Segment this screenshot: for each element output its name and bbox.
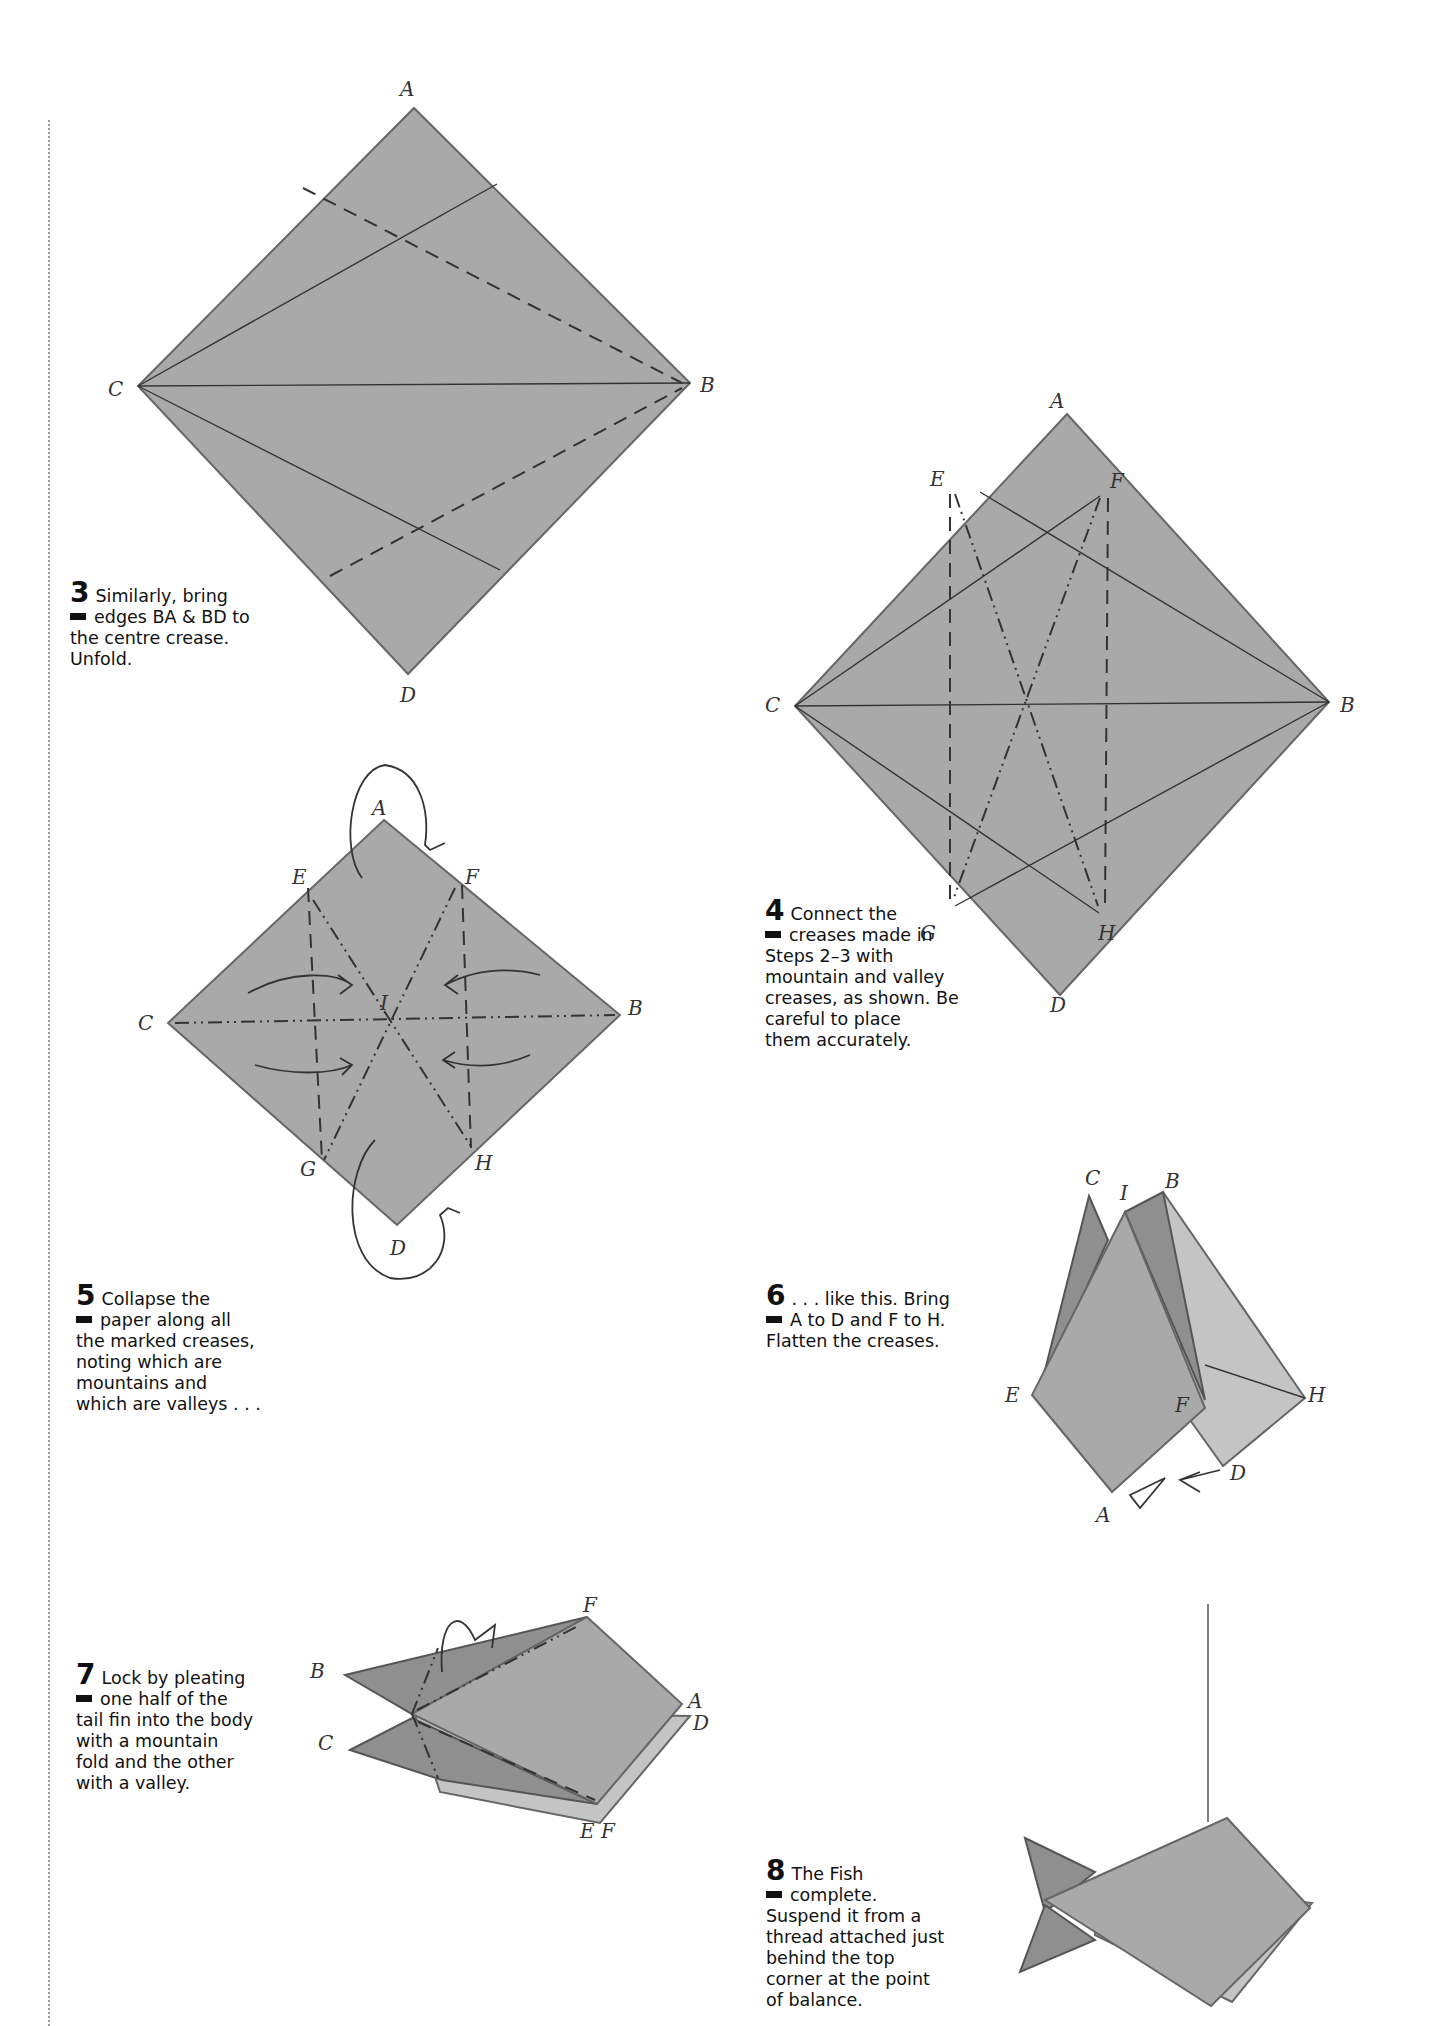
label-D: D — [399, 683, 416, 707]
label-C: C — [108, 377, 123, 401]
label-F: F — [1109, 469, 1125, 493]
label-E: E — [291, 865, 307, 889]
dotted-margin-rule — [48, 120, 50, 2026]
label-I: I — [1119, 1181, 1129, 1205]
label-H: H — [1097, 921, 1116, 945]
label-B: B — [627, 996, 643, 1020]
label-EF: E F — [579, 1819, 616, 1843]
step-7-instructions: 7Lock by pleating one half of the tail f… — [76, 1662, 253, 1794]
label-F: F — [464, 865, 480, 889]
label-D: D — [389, 1236, 406, 1260]
step-bar-icon — [766, 1316, 782, 1323]
step-number: 5 — [76, 1279, 95, 1312]
label-B: B — [309, 1659, 325, 1683]
label-C: C — [318, 1731, 333, 1755]
label-A: A — [370, 796, 386, 820]
step-bar-icon — [76, 1316, 92, 1323]
step-3-instructions: 3Similarly, bring edges BA & BD to the c… — [70, 580, 250, 670]
step-6-diagram: C I B E F H D A — [990, 1160, 1330, 1530]
label-B: B — [699, 373, 715, 397]
label-B: B — [1164, 1169, 1180, 1193]
arrow-icon — [1180, 1470, 1220, 1492]
label-A: A — [1094, 1503, 1110, 1527]
step-8-instructions: 8The Fish complete. Suspend it from a th… — [766, 1858, 944, 2011]
label-C: C — [1085, 1166, 1100, 1190]
step-number: 4 — [765, 894, 784, 927]
label-D: D — [1049, 993, 1066, 1017]
label-E: E — [1004, 1383, 1020, 1407]
label-A: A — [1048, 389, 1064, 413]
label-C: C — [138, 1011, 153, 1035]
label-A: A — [686, 1689, 702, 1713]
label-F: F — [1174, 1393, 1190, 1417]
fish-body — [1045, 1818, 1310, 2006]
step-bar-icon — [76, 1695, 92, 1702]
label-D: D — [692, 1711, 709, 1735]
label-E: E — [929, 467, 945, 491]
step-number: 7 — [76, 1658, 95, 1691]
label-A: A — [398, 77, 414, 101]
step-bar-icon — [765, 931, 781, 938]
step-number: 6 — [766, 1279, 785, 1312]
step-7-diagram: B C F A D E F — [300, 1580, 720, 1840]
label-C: C — [765, 693, 780, 717]
label-F: F — [582, 1593, 598, 1617]
step-number: 3 — [70, 576, 89, 609]
step-5-instructions: 5Collapse the paper along all the marked… — [76, 1283, 261, 1415]
step-bar-icon — [70, 613, 86, 620]
step-4-instructions: 4Connect the creases made in Steps 2–3 w… — [765, 898, 959, 1051]
label-B: B — [1339, 693, 1355, 717]
step-8-diagram — [1000, 1590, 1340, 2026]
step-6-instructions: 6. . . like this. Bring A to D and F to … — [766, 1283, 950, 1352]
label-I: I — [379, 991, 389, 1015]
label-H: H — [474, 1151, 493, 1175]
step-number: 8 — [766, 1854, 785, 1887]
valley-fold-symbol-icon — [1130, 1478, 1165, 1508]
label-H: H — [1307, 1383, 1326, 1407]
label-D: D — [1229, 1461, 1246, 1485]
label-G: G — [300, 1157, 316, 1181]
step-bar-icon — [766, 1891, 782, 1898]
